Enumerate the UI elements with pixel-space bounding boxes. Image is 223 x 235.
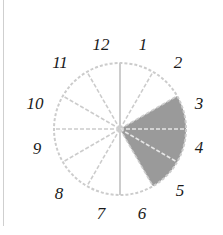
clock-label-6: 6 (138, 204, 147, 223)
radial-line (87, 129, 120, 186)
clock-label-12: 12 (93, 35, 111, 54)
clock-label-5: 5 (176, 181, 185, 200)
clock-label-9: 9 (33, 139, 42, 158)
clock-label-7: 7 (97, 204, 107, 223)
clock-diagram: 121234567891011 (0, 0, 223, 235)
clock-label-1: 1 (139, 35, 148, 54)
radial-line (87, 72, 120, 129)
clock-label-8: 8 (55, 184, 64, 203)
clock-label-3: 3 (194, 94, 204, 113)
clock-label-2: 2 (174, 53, 183, 72)
clock-label-11: 11 (52, 53, 68, 72)
radial-line (63, 129, 120, 162)
clock-label-4: 4 (195, 138, 204, 157)
radial-line (63, 96, 120, 129)
clock-label-10: 10 (27, 94, 45, 113)
